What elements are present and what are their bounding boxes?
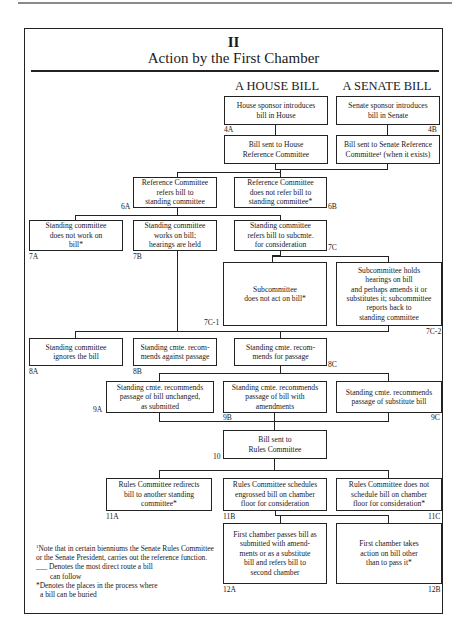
- node-11C: Rules Committee does not schedule bill o…: [336, 478, 442, 511]
- legend-buried-cont: a bill can be buried: [36, 590, 216, 599]
- chart-title: Action by the First Chamber: [24, 50, 443, 67]
- node-label-4A: 4A: [224, 126, 233, 134]
- connector: [280, 515, 281, 523]
- connector: [275, 124, 276, 135]
- node-10: Bill sent to Rules Committee: [223, 430, 327, 459]
- node-6A: Reference Committee refers bill to stand…: [133, 177, 217, 208]
- node-label-8B: 8B: [133, 368, 142, 376]
- node-label-10: 10: [213, 453, 221, 461]
- node-9A: Standing cmte. recommends passage of bil…: [106, 381, 214, 413]
- footnote: 1Note that in certain bienniums the Sena…: [36, 544, 216, 562]
- node-7C-2: Subcommittee holds hearings on bill and …: [336, 262, 442, 326]
- node-label-8A: 8A: [29, 368, 38, 376]
- connector: [75, 331, 76, 338]
- node-label-8C: 8C: [328, 361, 337, 369]
- node-label-9A: 9A: [93, 406, 102, 414]
- node-4B: Senate sponsor introduces bill in Senate: [336, 96, 440, 125]
- connector: [280, 331, 281, 338]
- node-8C: Standing cmte. recom- mends for passage: [234, 338, 327, 366]
- node-label-6A: 6A: [121, 203, 130, 211]
- direct-route-line-symbol: ___: [36, 562, 47, 571]
- title-divider: [31, 70, 439, 72]
- page-header-rule: [18, 2, 452, 4]
- node-7C-1: Subcommittee does not act on bill*: [223, 262, 327, 326]
- node-4A: House sponsor introduces bill in House: [224, 96, 328, 125]
- connector: [275, 515, 389, 516]
- connector: [75, 215, 281, 216]
- connector: [75, 331, 389, 332]
- connector: [275, 169, 388, 170]
- node-11B: Rules Committee schedules engrossed bill…: [223, 478, 327, 511]
- connector: [177, 207, 178, 215]
- node-label-11B: 11B: [223, 513, 235, 521]
- connector: [159, 470, 160, 478]
- connector: [274, 412, 275, 430]
- node-house-reference-committee: Bill sent to House Reference Committee: [224, 135, 328, 164]
- node-8B: Standing cmte. recom- mends against pass…: [133, 338, 217, 366]
- node-label-7B: 7B: [133, 253, 142, 261]
- connector: [388, 470, 389, 478]
- column-header-house: A HOUSE BILL: [222, 79, 332, 94]
- legend-direct-route: ___ Denotes the most direct route a bill: [36, 562, 216, 571]
- node-label-9C: 9C: [431, 414, 440, 422]
- node-7A: Standing committee does not work on bill…: [29, 220, 123, 251]
- column-header-senate: A SENATE BILL: [332, 79, 442, 94]
- node-label-7C-2: 7C-2: [426, 328, 441, 336]
- footnote-text: Note that in certain bienniums the Senat…: [36, 544, 214, 562]
- node-8A: Standing committee ignores the bill: [29, 338, 123, 366]
- node-label-7A: 7A: [29, 253, 38, 261]
- node-label-11A: 11A: [106, 513, 119, 521]
- connector: [272, 256, 389, 257]
- direct-route-text: Denotes the most direct route a bill: [49, 562, 153, 571]
- node-label-12B: 12B: [428, 586, 441, 594]
- section-number: II: [24, 34, 443, 51]
- connector: [159, 373, 389, 374]
- node-12B: First chamber takes action on bill other…: [336, 523, 442, 584]
- node-12A: First chamber passes bill as submitted w…: [223, 523, 327, 584]
- connector: [388, 373, 389, 381]
- node-senate-reference-committee: Bill sent to Senate Reference Committee¹…: [336, 135, 440, 164]
- node-11A: Rules Committee redirects bill to anothe…: [106, 478, 212, 511]
- node-label-7C: 7C: [328, 244, 337, 252]
- node-label-7C-1: 7C-1: [204, 319, 219, 327]
- connector: [177, 172, 281, 173]
- node-label-9B: 9B: [223, 414, 232, 422]
- node-label-12A: 12A: [223, 586, 236, 594]
- node-9C: Standing cmte. recommends passage of sub…: [336, 381, 442, 413]
- node-9B: Standing cmte. recommends passage of bil…: [223, 381, 327, 413]
- connector: [159, 373, 160, 381]
- legend-notes: 1Note that in certain bienniums the Sena…: [36, 544, 216, 599]
- node-6B: Reference Committee does not refer bill …: [234, 177, 327, 208]
- node-label-6B: 6B: [328, 203, 337, 211]
- connector: [159, 470, 389, 471]
- connector: [387, 124, 388, 135]
- legend-buried: *Denotes the places in the process where: [36, 581, 216, 590]
- connector: [388, 515, 389, 523]
- node-label-4B: 4B: [428, 126, 437, 134]
- direct-route-text-cont: can follow: [36, 572, 216, 581]
- node-7C: Standing committee refers bill to subcmt…: [234, 220, 327, 251]
- node-label-11C: 11C: [428, 513, 440, 521]
- node-7B: Standing committee works on bill; hearin…: [133, 220, 217, 251]
- connector: [177, 250, 178, 332]
